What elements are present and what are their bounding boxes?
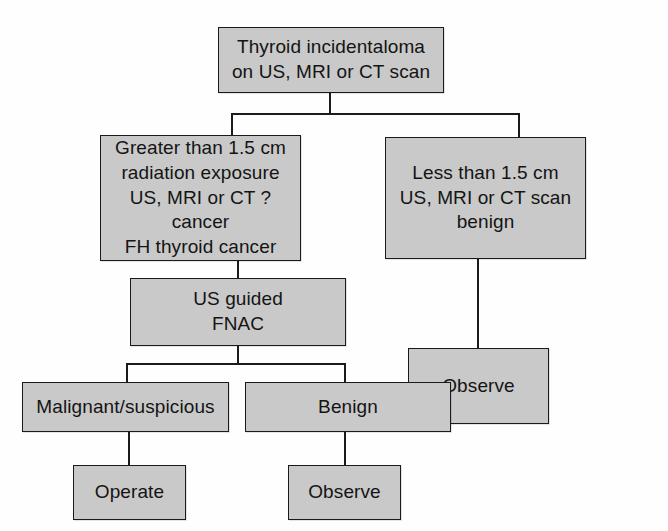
node-less-than-1-5-cm: Less than 1.5 cm US, MRI or CT scan beni… xyxy=(385,137,586,259)
connector-greater-to-fnac xyxy=(237,261,239,279)
connector-fnac-to-split xyxy=(237,346,239,364)
node-benign: Benign xyxy=(245,382,451,432)
flowchart-canvas: Thyroid incidentaloma on US, MRI or CT s… xyxy=(0,0,668,531)
node-greater-than-1-5-cm: Greater than 1.5 cm radiation exposure U… xyxy=(100,135,301,261)
connector-split-2-right-drop xyxy=(344,363,346,383)
connector-split-2-left-drop xyxy=(126,363,128,383)
connector-benign-to-observe xyxy=(344,432,346,466)
node-benign-label: Benign xyxy=(246,395,450,420)
node-operate-label: Operate xyxy=(74,480,185,505)
node-us-guided-fnac: US guided FNAC xyxy=(130,278,346,346)
connector-split-bar-level-1 xyxy=(231,113,520,115)
node-thyroid-incidentaloma-label: Thyroid incidentaloma on US, MRI or CT s… xyxy=(219,35,443,84)
node-malignant-suspicious-label: Malignant/suspicious xyxy=(23,395,228,420)
node-us-guided-fnac-label: US guided FNAC xyxy=(131,287,345,336)
node-malignant-suspicious: Malignant/suspicious xyxy=(22,382,229,432)
node-less-than-1-5-cm-label: Less than 1.5 cm US, MRI or CT scan beni… xyxy=(386,161,585,235)
node-thyroid-incidentaloma: Thyroid incidentaloma on US, MRI or CT s… xyxy=(218,27,444,93)
connector-malignant-to-operate xyxy=(128,432,130,466)
connector-split-1-left-drop xyxy=(231,113,233,136)
node-greater-than-1-5-cm-label: Greater than 1.5 cm radiation exposure U… xyxy=(101,136,300,259)
connector-split-1-right-drop xyxy=(518,113,520,138)
node-observe-benign-cytology: Observe xyxy=(288,465,401,520)
node-observe-benign-cytology-label: Observe xyxy=(289,480,400,505)
node-operate: Operate xyxy=(73,465,186,520)
connector-split-bar-level-2 xyxy=(126,363,346,365)
connector-root-to-split xyxy=(329,92,331,114)
connector-less-to-observe xyxy=(477,259,479,349)
